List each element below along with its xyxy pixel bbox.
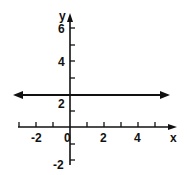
y-axis-arrow-icon [67,13,73,22]
x-axis-arrow-icon [168,124,177,130]
x-tick-label-neg2: -2 [31,131,42,145]
line-left-arrow-icon [13,91,23,99]
y-axis-label: y [59,9,66,23]
y-tick-label-2: 2 [58,97,65,111]
x-tick-label-4: 4 [134,131,141,145]
x-tick-label-2: 2 [100,131,107,145]
x-tick-label-0: 0 [64,131,71,145]
y-tick-label-neg2: -2 [53,158,64,172]
coordinate-plane: y 6 4 2 -2 -2 0 2 4 x [0,0,187,175]
x-axis-label: x [170,131,177,145]
line-right-arrow-icon [160,91,170,99]
y-tick-label-6: 6 [58,22,65,36]
y-tick-label-4: 4 [58,55,65,69]
